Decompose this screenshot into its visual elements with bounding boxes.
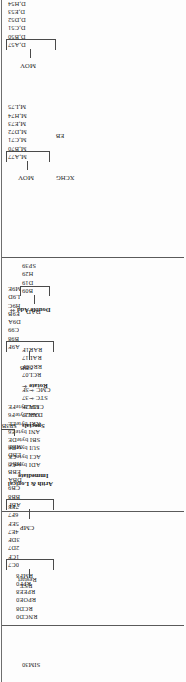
- mov-m-brace: [6, 151, 50, 162]
- mnemonic: DAA: [29, 412, 43, 419]
- list-item: M,D72: [8, 129, 27, 135]
- list-item: 2D7: [8, 545, 19, 551]
- list-item: 5EF: [8, 520, 19, 526]
- opcode: 73: [8, 121, 15, 128]
- list-item: RCL07: [22, 372, 41, 378]
- list-item: 6F7: [8, 512, 18, 518]
- mnemonic: 2: [16, 545, 19, 552]
- mnemonic: 3: [16, 537, 19, 544]
- opcode: 72: [8, 129, 15, 136]
- opcode: 74: [8, 113, 15, 120]
- opcode: 53: [8, 9, 15, 16]
- mnemonic: RAL: [29, 355, 42, 362]
- opcode: 30: [22, 662, 29, 669]
- mnemonic: M,H: [15, 113, 27, 120]
- specials-heading: Specials: [22, 423, 45, 430]
- sbb-group-label: SBB: [20, 365, 33, 372]
- opcode: D7: [8, 545, 16, 552]
- opcode: 9E: [8, 286, 15, 293]
- list-item: SIM30: [22, 662, 40, 668]
- mnemonic: RNC: [24, 614, 37, 621]
- section-sim: SIM30: [0, 628, 186, 682]
- list-item: M,H74: [8, 112, 27, 118]
- mnemonic: ADI byte: [16, 462, 41, 469]
- list-item: ADI byteC6: [8, 462, 40, 468]
- list-item: SP39: [22, 263, 36, 269]
- list-item: RCD8: [16, 605, 33, 611]
- cmp-group-label: CMP: [20, 525, 34, 532]
- mnemonic: RCL: [29, 372, 42, 379]
- mnemonic: D,C: [15, 25, 26, 32]
- mnemonic: RPE: [23, 589, 35, 596]
- opcode: C6: [8, 462, 16, 469]
- mnemonic: SUI byte: [16, 445, 40, 452]
- mnemonic: C: [15, 327, 19, 334]
- mnemonic: H: [29, 271, 34, 278]
- opcode: 9D: [8, 294, 16, 301]
- mnemonic: RPO: [23, 597, 36, 604]
- list-item: RAL17: [22, 355, 42, 361]
- list-item: D,C51: [8, 25, 25, 31]
- opcode: 07: [22, 372, 29, 379]
- mnemonic: D,H: [15, 1, 26, 8]
- opcode: FE: [8, 404, 16, 411]
- mnemonic: D: [16, 319, 21, 326]
- list-item: 4E7: [8, 529, 19, 535]
- sp-brace: [1, 429, 15, 436]
- list-item: CMA2F: [22, 403, 44, 409]
- list-item: D9A: [8, 319, 21, 325]
- section-mov-m: M,A77 M,B70 M,C71 M,D72 M,E73 M,H74 M,L7…: [0, 84, 186, 184]
- list-item: D19: [22, 279, 33, 285]
- list-item: SUI byteD6: [8, 445, 40, 451]
- section-cmp-immediate: ABF BB8 CB9 DBA EBB HBC LBD MBE CMP Arit…: [0, 392, 186, 510]
- list-item: L9D: [8, 294, 20, 300]
- mnemonic: CMA: [29, 404, 44, 411]
- opcode: D6: [8, 445, 16, 452]
- mnemonic: SIM: [29, 662, 41, 669]
- mnemonic: 4: [15, 529, 18, 536]
- list-item: C99: [8, 327, 19, 333]
- sbb-brace: [6, 341, 54, 352]
- mov-d-brace-stem: [30, 49, 31, 58]
- opcode: E7: [8, 529, 15, 536]
- immediate-heading-line2: Immediate: [18, 473, 48, 480]
- cmp-brace-stem: [29, 509, 30, 519]
- opcode: 2F: [22, 404, 29, 411]
- opcode: F7: [8, 512, 15, 519]
- reference-card-page: SIM30 RNCD0 RCD8 RPOE0 RPEE8 RPF0 RMF8 R…: [0, 0, 186, 682]
- opcode: EF: [8, 521, 16, 528]
- opcode: 17: [22, 355, 29, 362]
- mnemonic: M,L: [15, 104, 26, 111]
- list-item: ACI byteCE: [8, 453, 41, 459]
- opcode: 39: [22, 263, 29, 270]
- mov-d-brace: [6, 39, 56, 50]
- opcode: BB: [8, 469, 17, 476]
- dad-group-label: DAD: [26, 309, 41, 316]
- xchg-opcode: EB: [56, 133, 64, 140]
- list-item: RNCD0: [16, 614, 37, 620]
- mnemonic: SP: [29, 263, 36, 270]
- mnemonic: SBI byte: [17, 437, 40, 444]
- list-item: H29: [22, 271, 33, 277]
- opcode: 29: [22, 271, 29, 278]
- mov-m-group-label: MOV: [18, 175, 34, 182]
- list-item: M,L75: [8, 104, 26, 110]
- opcode: DF: [8, 537, 16, 544]
- mov-m-brace-stem: [27, 161, 28, 170]
- xchg-label: XCHG: [56, 175, 74, 182]
- list-item: M,E73: [8, 121, 26, 127]
- mnemonic: M,E: [15, 121, 26, 128]
- restart-brace: [6, 559, 54, 570]
- opcode: 9A: [8, 319, 16, 326]
- restart-group-label: RST: [20, 583, 32, 590]
- mnemonic: M,C: [15, 137, 27, 144]
- opcode: 75: [8, 104, 15, 111]
- mnemonic: 6: [15, 512, 18, 519]
- list-item: STC†37: [22, 395, 48, 401]
- section-divider: [2, 625, 184, 626]
- rotated-card-column: SIM30 RNCD0 RCD8 RPOE0 RPEE8 RPF0 RMF8 R…: [0, 0, 186, 682]
- opcode: CE: [8, 454, 16, 461]
- mov-d-group-label: MOV: [20, 63, 36, 70]
- opcode: E0: [16, 597, 23, 604]
- opcode: 99: [8, 327, 15, 334]
